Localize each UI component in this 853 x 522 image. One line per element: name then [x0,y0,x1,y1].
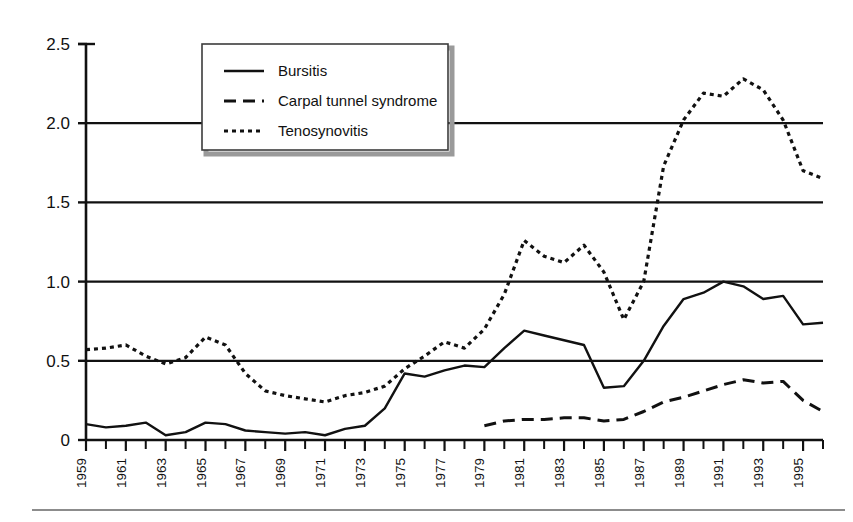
legend-label: Bursitis [278,62,327,79]
gridlines [86,123,823,361]
legend-label: Tenosynovitis [278,122,368,139]
x-axis-tick-label: 1973 [353,458,368,488]
legend-label: Carpal tunnel syndrome [278,92,437,109]
x-axis-tick-label: 1995 [791,458,806,488]
x-axis-tick-label: 1993 [751,458,766,488]
y-axis-tick-label: 2.5 [46,35,70,54]
x-axis-tick-label: 1981 [512,458,527,488]
y-axis-tick-label: 0.5 [46,352,70,371]
y-axis-tick-label: 1.0 [46,273,70,292]
y-axis-tick-label: 2.0 [46,114,70,133]
chart-figure: 00.51.01.52.02.5 19591961196319651967196… [0,0,853,522]
x-axis-tick-label: 1991 [711,458,726,488]
series-line-carpal-tunnel-syndrome [484,380,823,426]
x-axis-tick-label: 1961 [114,458,129,488]
chart-legend: BursitisCarpal tunnel syndromeTenosynovi… [202,44,452,154]
x-axis-tick-label: 1963 [154,458,169,488]
x-axis-tick-label: 1979 [472,458,487,488]
x-axis-tick-label: 1989 [672,458,687,488]
x-axis-tick-label: 1969 [273,458,288,488]
x-axis-tick-label: 1971 [313,458,328,488]
x-axis-tick-label: 1977 [433,458,448,488]
y-axis-tick-label: 1.5 [46,193,70,212]
x-axis-ticks [86,440,823,451]
y-axis-tick-labels: 00.51.01.52.02.5 [46,35,70,450]
x-axis-tick-label: 1983 [552,458,567,488]
x-axis-tick-label: 1985 [592,458,607,488]
x-axis-tick-label: 1975 [393,458,408,488]
line-chart: 00.51.01.52.02.5 19591961196319651967196… [0,0,853,522]
x-axis-tick-label: 1965 [194,458,209,488]
x-axis-tick-label: 1987 [632,458,647,488]
x-axis-tick-labels: 1959196119631965196719691971197319751977… [74,458,806,488]
series-line-bursitis [86,282,823,436]
x-axis-tick-label: 1959 [74,458,89,488]
y-axis-tick-label: 0 [61,431,70,450]
x-axis-tick-label: 1967 [233,458,248,488]
